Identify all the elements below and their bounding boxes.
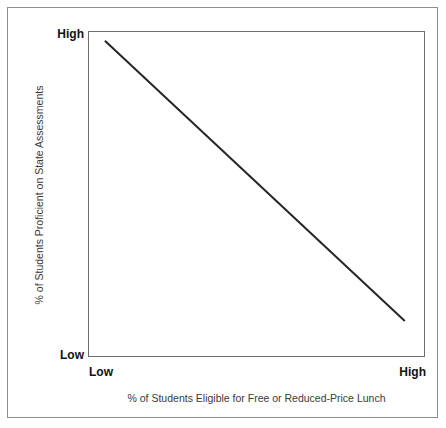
y-axis-tick-high: High (57, 28, 84, 41)
plot-canvas (88, 31, 425, 357)
y-axis-title: % of Students Proficient on State Assess… (33, 32, 45, 358)
x-axis-tick-low: Low (89, 366, 113, 379)
x-axis-title: % of Students Eligible for Free or Reduc… (88, 392, 425, 404)
x-axis-tick-high: High (399, 366, 426, 379)
y-axis-tick-low: Low (60, 349, 84, 362)
trend-line (105, 41, 405, 321)
chart-figure: High Low Low High % of Students Proficie… (0, 0, 446, 428)
